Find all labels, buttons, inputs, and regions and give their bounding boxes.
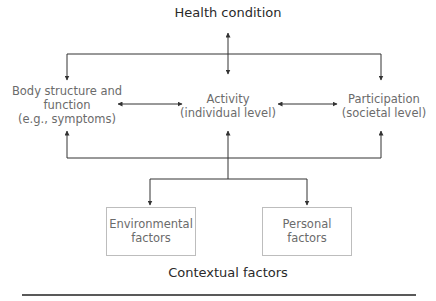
top-bus-line (67, 54, 381, 80)
environmental-line2: factors (107, 231, 195, 245)
participation-line2: (societal level) (336, 106, 432, 120)
environmental-line1: Environmental (107, 217, 195, 231)
body-line1: Body structure and (2, 84, 132, 98)
participation-line1: Participation (336, 92, 432, 106)
contextual-factors-label: Contextual factors (148, 266, 308, 280)
connector-lines (0, 0, 436, 301)
participation-node: Participation (societal level) (336, 92, 432, 120)
health-condition-label: Health condition (168, 6, 288, 20)
body-structure-node: Body structure and function (e.g., sympt… (2, 84, 132, 126)
personal-label: Personal factors (263, 217, 351, 245)
personal-factors-box: Personal factors (262, 207, 352, 256)
activity-node: Activity (individual level) (168, 92, 288, 120)
personal-line1: Personal (263, 217, 351, 231)
body-line2: function (2, 98, 132, 112)
personal-line2: factors (263, 231, 351, 245)
environmental-label: Environmental factors (107, 217, 195, 245)
bottom-bus-line (67, 131, 381, 158)
body-line3: (e.g., symptoms) (2, 112, 132, 126)
contextual-branch-line (150, 179, 307, 205)
activity-line1: Activity (168, 92, 288, 106)
environmental-factors-box: Environmental factors (106, 207, 196, 256)
activity-line2: (individual level) (168, 106, 288, 120)
